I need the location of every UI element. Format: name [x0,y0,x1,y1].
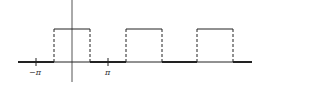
square-wave-diagram: −π π [0,0,332,87]
tick-label-neg-pi: −π [29,68,42,77]
tick-label-pi: π [104,68,111,77]
